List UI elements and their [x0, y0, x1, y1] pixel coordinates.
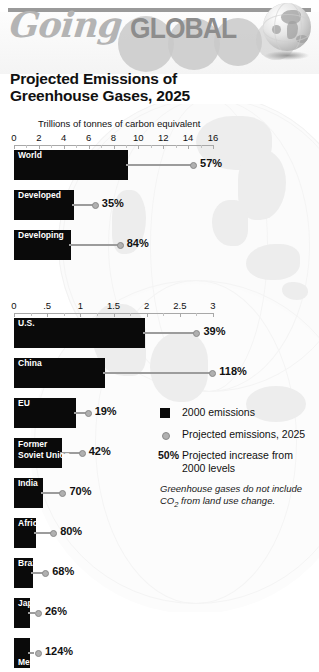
black-bar-swatch-icon [160, 408, 170, 418]
chart-bar-row: China118% [14, 358, 304, 388]
brand-bold-global: GLOBAL [130, 11, 236, 45]
axis-tick-label: 4 [61, 132, 66, 143]
axis-tick [14, 313, 15, 317]
axis-tick-label: 12 [158, 132, 169, 143]
chart-aggregate-regions: Trillions of tonnes of carbon equivalent… [14, 118, 304, 270]
bar-category-label: Mexico [18, 658, 47, 668]
percent-increase-label: 118% [219, 365, 247, 377]
axis-caption: Trillions of tonnes of carbon equivalent [38, 118, 200, 129]
axis-tick [180, 313, 181, 317]
projected-emissions-dot [79, 450, 86, 457]
axis-tick [114, 145, 115, 149]
legend: 2000 emissions Projected emissions, 2025… [160, 406, 315, 511]
axis-tick [114, 313, 115, 317]
projected-emissions-dot [35, 610, 42, 617]
bar-category-label: Developing [18, 231, 64, 241]
axis-tick [39, 145, 40, 149]
axis-tick-minor [176, 145, 177, 148]
footnote-line-2: from land use change. [181, 495, 275, 506]
percent-increase-label: 35% [102, 197, 124, 209]
projected-emissions-dot [42, 570, 49, 577]
axis-tick-label: 2.5 [173, 300, 186, 311]
axis-tick-label: 2 [36, 132, 41, 143]
projection-connector [126, 164, 195, 166]
percent-increase-label: 84% [127, 237, 149, 249]
projected-emissions-dot [193, 330, 200, 337]
axis-tick-minor [163, 313, 164, 316]
legend-label-2000: 2000 emissions [182, 406, 315, 419]
axis-tick [213, 313, 214, 317]
projected-emissions-dot [35, 650, 42, 657]
projection-connector [143, 332, 198, 334]
axis-tick-label: .5 [43, 300, 51, 311]
bar-category-label: Africa [18, 519, 42, 529]
axis-tick-label: 6 [86, 132, 91, 143]
percent-increase-label: 39% [203, 325, 225, 337]
bar-category-label: EU [18, 399, 30, 409]
axis-tick [80, 313, 81, 317]
axis-tick-label: 1.5 [107, 300, 120, 311]
percent-increase-label: 42% [89, 445, 111, 457]
brand-script-going: Going [8, 4, 124, 45]
legend-footnote: Greenhouse gases do not include CO2 from… [160, 483, 315, 511]
projected-emissions-dot [190, 162, 197, 169]
percent-increase-label: 70% [69, 485, 91, 497]
percent-increase-label: 80% [60, 525, 82, 537]
axis-tick-label: 3 [210, 300, 215, 311]
bar-category-label: Developed [18, 191, 61, 201]
legend-label-percent: Projected increase from 2000 levels [182, 449, 315, 474]
axis-tick [163, 145, 164, 149]
axis-tick-label: 16 [208, 132, 219, 143]
projection-connector [103, 372, 214, 374]
axis-tick-minor [76, 145, 77, 148]
legend-row-projected: Projected emissions, 2025 [160, 428, 315, 441]
axis-tick [138, 145, 139, 149]
axis-tick [47, 313, 48, 317]
axis-tick-minor [151, 145, 152, 148]
chart-bar-row: Developing84% [14, 230, 304, 260]
chart-bar-row: World57% [14, 150, 304, 180]
legend-label-projected: Projected emissions, 2025 [182, 428, 315, 441]
chart-bar-row: Africa80% [14, 518, 304, 548]
bar-category-label: China [18, 359, 42, 369]
axis-tick-label: 14 [183, 132, 194, 143]
axis-tick-minor [126, 145, 127, 148]
projection-connector [69, 244, 122, 246]
axis-tick-minor [64, 313, 65, 316]
chart-bar-row: Developed35% [14, 190, 304, 220]
axis-tick [188, 145, 189, 149]
chart-bar-row: U.S.39% [14, 318, 304, 348]
axis-tick-label: 0 [11, 300, 16, 311]
projected-emissions-dot [59, 490, 66, 497]
bar-category-label: Brazil [18, 559, 41, 569]
axis-tick-label: 2 [144, 300, 149, 311]
page-title: Projected Emissions of Greenhouse Gases,… [10, 70, 240, 104]
bar-category-label: FormerSoviet Union [18, 439, 70, 460]
axis-tick-minor [26, 145, 27, 148]
legend-row-percent: 50% Projected increase from 2000 levels [160, 449, 315, 474]
axis-tick-minor [101, 145, 102, 148]
projected-emissions-dot [117, 242, 124, 249]
axis-tick-minor [51, 145, 52, 148]
percent-increase-label: 19% [95, 405, 117, 417]
axis-tick-label: 8 [111, 132, 116, 143]
projected-emissions-dot [209, 370, 216, 377]
axis-tick-minor [201, 145, 202, 148]
globe-icon [259, 2, 315, 62]
legend-row-2000: 2000 emissions [160, 406, 315, 419]
projected-dot-icon [162, 432, 170, 440]
chart-bar-row: Mexico124% [14, 638, 304, 668]
axis-tick-label: 1 [78, 300, 83, 311]
axis-tick-minor [130, 313, 131, 316]
bar-category-label: World [18, 151, 42, 161]
x-axis: 0.511.522.53 [14, 300, 214, 316]
axis-tick-minor [196, 313, 197, 316]
projection-connector [28, 652, 34, 654]
projected-emissions-dot [85, 410, 92, 417]
percent-increase-label: 68% [52, 565, 74, 577]
chart-bar-row: Brazil68% [14, 558, 304, 588]
axis-tick [89, 145, 90, 149]
axis-tick [14, 145, 15, 149]
axis-tick-label: 10 [133, 132, 144, 143]
x-axis: 0246810121416 [14, 132, 214, 148]
